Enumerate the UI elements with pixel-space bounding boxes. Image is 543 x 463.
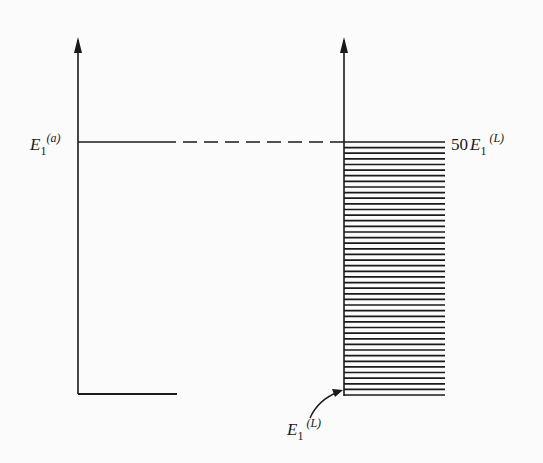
e1l-pointer [310, 389, 343, 418]
right-energy-axis [340, 37, 348, 396]
label-50-e1l: 50E1(L) [451, 131, 504, 158]
right-axis-arrow-icon [340, 37, 348, 53]
pointer-arrowhead-icon [332, 389, 343, 397]
label-e1a: E1(a) [29, 131, 60, 158]
label-e1l: E1(L) [286, 416, 321, 443]
left-energy-axis [74, 37, 177, 394]
left-axis-arrow-icon [74, 37, 82, 53]
energy-level-diagram: E1(a) 50E1(L) E1(L) [0, 0, 543, 463]
level-band [344, 142, 445, 395]
